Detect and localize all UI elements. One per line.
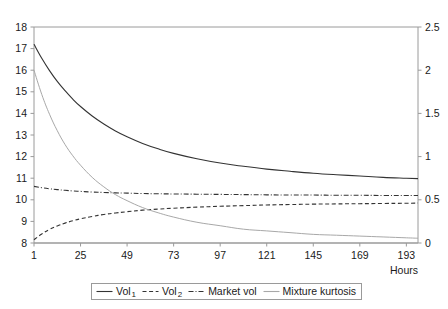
x-axis-tick: 49 <box>107 250 147 261</box>
legend-swatch-icon <box>263 288 280 295</box>
series-group <box>34 44 418 239</box>
y-axis-left-tick: 9 <box>0 216 27 227</box>
chart-figure: 89101112131415161718 00.511.522.5 125497… <box>0 0 448 309</box>
y-axis-left-tick: 11 <box>0 173 27 184</box>
y-axis-left-tick: 14 <box>0 108 27 119</box>
y-axis-right-tick: 0 <box>425 238 431 249</box>
legend-label-subscript: 1 <box>131 290 136 299</box>
legend-item-0[interactable]: Vol1 <box>96 286 136 297</box>
y-axis-left-tick: 13 <box>0 130 27 141</box>
x-axis-tick: 193 <box>386 250 426 261</box>
y-axis-right-tick: 1 <box>425 151 431 162</box>
y-axis-right-tick: 2.5 <box>425 22 440 33</box>
legend-swatch-icon <box>142 288 159 295</box>
y-axis-left-tick: 17 <box>0 43 27 54</box>
x-axis-title: Hours <box>390 264 418 276</box>
y-axis-left-tick: 16 <box>0 65 27 76</box>
x-axis-tick: 145 <box>293 250 333 261</box>
legend-label: Vol1 <box>116 286 136 297</box>
legend-label-subscript: 2 <box>177 290 182 299</box>
legend-item-2[interactable]: Market vol <box>188 286 256 297</box>
x-axis-tick: 1 <box>14 250 54 261</box>
y-axis-left-tick: 8 <box>0 238 27 249</box>
y-axis-left-tick: 18 <box>0 22 27 33</box>
legend-swatch-icon <box>96 288 113 295</box>
x-axis-tick: 121 <box>247 250 287 261</box>
series-line-3 <box>34 70 418 238</box>
legend-label: Mixture kurtosis <box>283 286 357 297</box>
y-axis-right-tick: 0.5 <box>425 194 440 205</box>
chart-legend: Vol1Vol2Market volMixture kurtosis <box>91 283 362 300</box>
x-axis-tick: 169 <box>340 250 380 261</box>
y-axis-right-tick: 2 <box>425 65 431 76</box>
series-line-0 <box>34 44 418 178</box>
y-axis-left-tick: 10 <box>0 194 27 205</box>
plot-canvas <box>0 0 448 309</box>
legend-label: Vol2 <box>162 286 182 297</box>
x-axis-tick: 73 <box>154 250 194 261</box>
x-axis-tick: 97 <box>200 250 240 261</box>
legend-item-3[interactable]: Mixture kurtosis <box>263 286 357 297</box>
axes-group <box>31 27 422 247</box>
legend-label: Market vol <box>208 286 256 297</box>
y-axis-right-tick: 1.5 <box>425 108 440 119</box>
y-axis-left-tick: 15 <box>0 86 27 97</box>
x-axis-tick: 25 <box>61 250 101 261</box>
series-line-2 <box>34 186 418 195</box>
legend-item-1[interactable]: Vol2 <box>142 286 182 297</box>
series-line-1 <box>34 203 418 240</box>
y-axis-left-tick: 12 <box>0 151 27 162</box>
legend-swatch-icon <box>188 288 205 295</box>
